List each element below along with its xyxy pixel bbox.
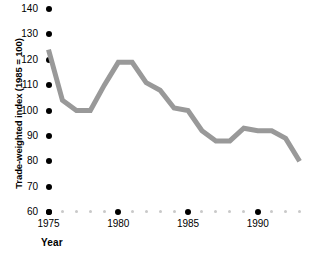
plot-area <box>0 0 310 256</box>
data-series-line <box>49 50 300 162</box>
trade-weighted-index-line-chart: Trade-weighted index (1985 = 100) Year 1… <box>0 0 310 256</box>
